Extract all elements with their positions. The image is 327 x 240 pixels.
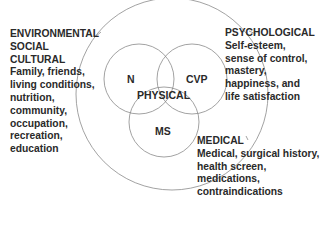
psychological-block: PSYCHOLOGICAL Self-esteem, sense of cont… xyxy=(225,27,315,104)
psychological-line: mastery, xyxy=(225,65,315,78)
medical-line: Medical, surgical history, xyxy=(197,148,319,161)
label-ms: MS xyxy=(155,125,171,137)
cultural-heading: CULTURAL xyxy=(10,54,99,67)
psychological-line: Self-esteem, xyxy=(225,40,315,53)
environmental-line: education xyxy=(10,143,99,156)
environmental-line: community, xyxy=(10,105,99,118)
label-physical: PHYSICAL xyxy=(137,89,190,101)
medical-block: MEDICAL Medical, surgical history, healt… xyxy=(197,135,319,199)
psychological-line: happiness, and xyxy=(225,78,315,91)
environmental-heading: ENVIRONMENTAL xyxy=(10,28,99,41)
psychological-line: sense of control, xyxy=(225,53,315,66)
medical-line: health screen, xyxy=(197,161,319,174)
social-heading: SOCIAL xyxy=(10,41,99,54)
medical-heading: MEDICAL xyxy=(197,135,319,148)
psychological-heading: PSYCHOLOGICAL xyxy=(225,27,315,40)
environmental-line: occupation, xyxy=(10,118,99,131)
environmental-line: recreation, xyxy=(10,130,99,143)
environmental-block: ENVIRONMENTAL SOCIAL CULTURAL Family, fr… xyxy=(10,28,99,156)
environmental-line: nutrition, xyxy=(10,92,99,105)
circle-n xyxy=(104,44,174,114)
medical-line: medications, xyxy=(197,173,319,186)
environmental-line: living conditions, xyxy=(10,79,99,92)
medical-line: contraindications xyxy=(197,186,319,199)
label-cvp: CVP xyxy=(186,73,208,85)
psychological-line: life satisfaction xyxy=(225,91,315,104)
label-n: N xyxy=(127,73,135,85)
environmental-line: Family, friends, xyxy=(10,66,99,79)
